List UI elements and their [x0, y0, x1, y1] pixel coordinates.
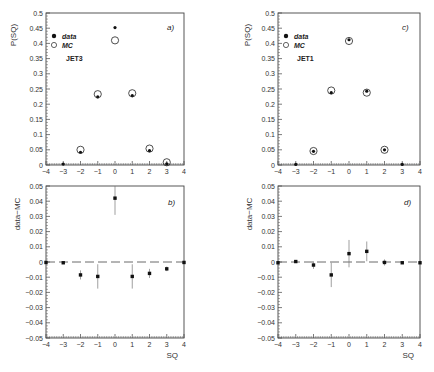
data-point	[113, 196, 116, 199]
data-point	[131, 275, 134, 278]
y-tick-label: 0.35	[29, 55, 43, 62]
data-point	[79, 273, 82, 276]
panel-label: c)	[402, 23, 409, 32]
y-tick-label: −0.05	[25, 335, 43, 342]
legend-mc-label: MC	[294, 42, 306, 49]
y-tick-label: 0.1	[33, 131, 43, 138]
x-tick-label: 4	[182, 168, 186, 175]
x-tick-label: −2	[77, 168, 85, 175]
data-point	[418, 261, 421, 264]
y-tick-label: 0.05	[29, 183, 43, 190]
y-axis-title: data−MC	[245, 197, 254, 230]
y-tick-label: −0.03	[257, 304, 275, 311]
x-axis-title: SQ	[402, 351, 414, 360]
data-point	[276, 261, 279, 264]
panel-label: a)	[167, 23, 174, 32]
legend-data-marker-icon	[284, 34, 288, 38]
y-tick-label: 0.02	[261, 228, 275, 235]
data-point	[182, 261, 185, 264]
x-tick-label: 2	[383, 168, 387, 175]
data-point	[347, 252, 350, 255]
y-axis-title: data−MC	[13, 197, 22, 230]
legend-data-marker-icon	[52, 34, 56, 38]
y-tick-label: 0.01	[261, 243, 275, 250]
legend-mc-marker-icon	[283, 42, 288, 47]
x-tick-label: −3	[59, 341, 67, 348]
data-point	[401, 261, 404, 264]
y-tick-label: 0.03	[261, 213, 275, 220]
x-tick-label: 2	[383, 341, 387, 348]
data-point	[383, 261, 386, 264]
data-point	[312, 263, 315, 266]
y-tick-label: 0.03	[29, 213, 43, 220]
panel-label: d)	[404, 198, 411, 207]
y-tick-label: 0.45	[29, 25, 43, 32]
x-tick-label: 4	[418, 341, 422, 348]
y-tick-label: 0.45	[261, 25, 275, 32]
y-tick-label: 0	[39, 259, 43, 266]
y-tick-label: −0.02	[25, 289, 43, 296]
x-tick-label: 0	[347, 168, 351, 175]
data-point	[365, 250, 368, 253]
data-point	[330, 273, 333, 276]
y-tick-label: −0.01	[257, 274, 275, 281]
x-tick-label: −4	[274, 341, 282, 348]
data-point	[401, 163, 404, 166]
y-tick-label: 0	[271, 162, 275, 169]
x-tick-label: 3	[400, 168, 404, 175]
y-tick-label: 0.35	[261, 55, 275, 62]
x-tick-label: 1	[130, 168, 134, 175]
y-tick-label: 0.2	[33, 101, 43, 108]
x-tick-label: 2	[148, 341, 152, 348]
x-tick-label: −1	[94, 168, 102, 175]
x-tick-label: 1	[365, 341, 369, 348]
y-tick-label: 0.5	[265, 10, 275, 17]
panel-d: −4−3−2−101234−0.05−0.04−0.03−0.02−0.0100…	[245, 183, 422, 361]
y-tick-label: 0.1	[265, 131, 275, 138]
mc-point	[111, 37, 118, 44]
legend-mc-marker-icon	[51, 42, 56, 47]
y-tick-label: 0.5	[33, 10, 43, 17]
y-tick-label: 0.04	[29, 198, 43, 205]
x-tick-label: 2	[148, 168, 152, 175]
data-point	[347, 38, 350, 41]
y-tick-label: 0.25	[29, 86, 43, 93]
data-point	[148, 272, 151, 275]
y-tick-label: 0.05	[29, 146, 43, 153]
y-tick-label: 0.4	[265, 40, 275, 47]
x-tick-label: 0	[347, 341, 351, 348]
x-tick-label: 3	[400, 341, 404, 348]
y-tick-label: 0.2	[265, 101, 275, 108]
panel-b: −4−3−2−101234−0.05−0.04−0.03−0.02−0.0100…	[13, 183, 186, 361]
x-tick-label: −2	[77, 341, 85, 348]
x-tick-label: −1	[94, 341, 102, 348]
data-point	[165, 267, 168, 270]
x-tick-label: 4	[182, 341, 186, 348]
panel-label: b)	[168, 198, 175, 207]
data-point	[62, 261, 65, 264]
x-tick-label: 1	[130, 341, 134, 348]
y-tick-label: 0	[39, 162, 43, 169]
jet-annotation: JET3	[66, 55, 83, 62]
data-point	[294, 260, 297, 263]
y-tick-label: 0.3	[265, 70, 275, 77]
x-tick-label: −2	[310, 341, 318, 348]
data-point	[165, 162, 168, 165]
x-tick-label: 3	[165, 341, 169, 348]
y-tick-label: 0.15	[29, 116, 43, 123]
data-point	[96, 275, 99, 278]
y-tick-label: 0.15	[261, 116, 275, 123]
panel-c: −4−3−2−10123400.050.10.150.20.250.30.350…	[243, 10, 422, 176]
x-tick-label: 0	[113, 341, 117, 348]
y-tick-label: 0.02	[29, 228, 43, 235]
x-tick-label: 3	[165, 168, 169, 175]
y-tick-label: 0.01	[29, 243, 43, 250]
x-tick-label: −1	[327, 168, 335, 175]
legend-data-label: data	[62, 33, 77, 40]
y-tick-label: 0.05	[261, 146, 275, 153]
data-point	[62, 162, 65, 165]
x-tick-label: −3	[292, 168, 300, 175]
y-tick-label: 0.4	[33, 40, 43, 47]
y-tick-label: −0.05	[257, 335, 275, 342]
y-axis-title: P(SQ)	[243, 24, 252, 47]
